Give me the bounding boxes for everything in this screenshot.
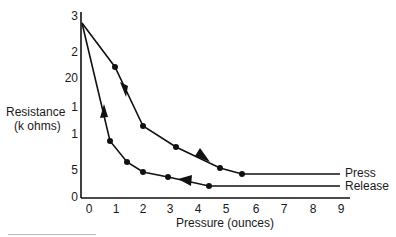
press-series-markers bbox=[112, 64, 245, 177]
x-tick-label: 5 bbox=[219, 203, 233, 215]
x-tick-label: 4 bbox=[191, 203, 205, 215]
x-tick-label: 3 bbox=[163, 203, 177, 215]
y-axis-label-line2: (k ohms) bbox=[14, 120, 61, 132]
press-arrow-down-icon bbox=[120, 82, 128, 97]
y-tick-label: 20 bbox=[58, 72, 78, 84]
x-tick-label: 7 bbox=[277, 203, 291, 215]
y-tick-label: 2 bbox=[58, 46, 78, 58]
x-tick-label: 9 bbox=[334, 203, 348, 215]
x-tick-label: 2 bbox=[136, 203, 150, 215]
press-series-line bbox=[82, 23, 340, 174]
x-axis-label: Pressure (ounces) bbox=[176, 217, 274, 229]
y-tick-label: 3 bbox=[58, 10, 78, 22]
press-series-label: Press bbox=[345, 167, 376, 179]
y-tick-label: 5 bbox=[58, 164, 78, 176]
release-series-markers bbox=[107, 138, 212, 189]
x-tick-label: 1 bbox=[109, 203, 123, 215]
y-axis-label-line1: Resistance bbox=[6, 106, 65, 118]
y-tick-label: 0 bbox=[58, 191, 78, 203]
release-arrow-left-icon bbox=[178, 175, 192, 186]
release-series-label: Release bbox=[345, 180, 389, 192]
footer-rule bbox=[8, 234, 96, 235]
y-tick-label: 1 bbox=[58, 128, 78, 140]
x-tick-label: 8 bbox=[306, 203, 320, 215]
x-tick-label: 6 bbox=[249, 203, 263, 215]
release-series-line bbox=[82, 23, 340, 186]
x-tick-label: 0 bbox=[82, 203, 96, 215]
